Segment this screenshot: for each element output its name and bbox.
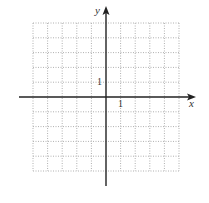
y-tick-label: 1 — [97, 76, 102, 87]
x-axis-label: x — [188, 97, 194, 109]
y-axis-label: y — [94, 4, 100, 16]
coordinate-plane: y x 1 1 — [0, 0, 209, 203]
x-tick-label: 1 — [118, 98, 123, 109]
